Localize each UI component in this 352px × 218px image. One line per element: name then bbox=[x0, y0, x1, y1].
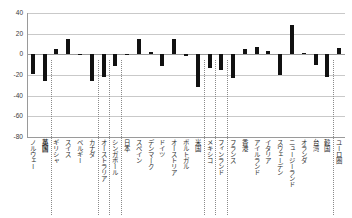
bar-slot bbox=[263, 13, 275, 137]
plot-area bbox=[27, 13, 345, 137]
x-axis-category-label: フィンランド bbox=[218, 139, 225, 175]
bar[interactable] bbox=[160, 54, 164, 65]
bar[interactable] bbox=[113, 54, 117, 65]
bar[interactable] bbox=[337, 48, 341, 54]
bar-slot bbox=[310, 13, 322, 137]
bar[interactable] bbox=[54, 49, 58, 54]
x-axis-category-label: デンマーク bbox=[147, 139, 154, 169]
y-axis-tick-label: -20 bbox=[0, 71, 23, 78]
bar[interactable] bbox=[255, 47, 259, 54]
bar-slot bbox=[51, 13, 63, 137]
x-axis-category-label: スウェーデン bbox=[277, 139, 284, 175]
bar-slot bbox=[227, 13, 239, 137]
bar-slot bbox=[86, 13, 98, 137]
bar-slot bbox=[145, 13, 157, 137]
bar[interactable] bbox=[172, 39, 176, 55]
x-axis-category-label: ノルウェー bbox=[29, 139, 36, 169]
bar[interactable] bbox=[266, 51, 270, 54]
x-axis-category-label: ポルトガル bbox=[183, 139, 190, 169]
bar-slot bbox=[62, 13, 74, 137]
bar-slot bbox=[333, 13, 345, 137]
x-axis-category-label: オランダ bbox=[300, 139, 307, 163]
bar-slot bbox=[74, 13, 86, 137]
x-axis-category-label: オーストラリア bbox=[100, 139, 107, 181]
x-axis-category-label: 韓国 bbox=[324, 139, 331, 151]
x-axis-category-label: ドイツ bbox=[159, 139, 166, 157]
x-axis-category-label: 米国 bbox=[194, 139, 201, 151]
bar[interactable] bbox=[231, 54, 235, 78]
bar-slot bbox=[157, 13, 169, 137]
bar[interactable] bbox=[184, 54, 188, 56]
bar-slot bbox=[204, 13, 216, 137]
bar-slot bbox=[192, 13, 204, 137]
x-axis-category-label: ユーロ圏 bbox=[336, 139, 343, 163]
bar-slot bbox=[133, 13, 145, 137]
x-axis-category-label: ニュージーランド bbox=[289, 139, 296, 187]
bar-slot bbox=[274, 13, 286, 137]
bar-slot bbox=[239, 13, 251, 137]
x-axis-category-label: アイルランド bbox=[253, 139, 260, 175]
bar[interactable] bbox=[66, 39, 70, 55]
y-axis-tick-label: 40 bbox=[0, 9, 23, 16]
bar[interactable] bbox=[278, 54, 282, 75]
x-axis-category-label: フランス bbox=[230, 139, 237, 163]
bar-slot bbox=[39, 13, 51, 137]
bar[interactable] bbox=[43, 54, 47, 81]
bar[interactable] bbox=[325, 54, 329, 77]
bar[interactable] bbox=[125, 54, 129, 55]
x-axis-label-group: ノルウェー英国ギリシャスイスベルギーカナダオーストラリアシンガポール日本スペイン… bbox=[27, 139, 345, 217]
x-axis-category-label: 日本 bbox=[124, 139, 131, 151]
x-axis-category-label: ギリシャ bbox=[53, 139, 60, 163]
bar[interactable] bbox=[302, 53, 306, 54]
bar[interactable] bbox=[219, 54, 223, 70]
bar[interactable] bbox=[196, 54, 200, 87]
bar-slot bbox=[180, 13, 192, 137]
bar[interactable] bbox=[31, 54, 35, 74]
bar-slot bbox=[109, 13, 121, 137]
bar[interactable] bbox=[314, 54, 318, 64]
bar[interactable] bbox=[208, 54, 212, 67]
x-axis-category-label: オーストリア bbox=[171, 139, 178, 175]
bar-slot bbox=[98, 13, 110, 137]
bar-slot bbox=[321, 13, 333, 137]
y-axis-tick-label: 20 bbox=[0, 30, 23, 37]
bar[interactable] bbox=[290, 25, 294, 54]
bar[interactable] bbox=[90, 54, 94, 81]
bar[interactable] bbox=[102, 54, 106, 77]
x-axis-category-label: 香港 bbox=[241, 139, 248, 151]
x-axis-category-label: 英国 bbox=[41, 139, 48, 151]
x-axis-category-label: メキシコ bbox=[206, 139, 213, 163]
bar-slot bbox=[286, 13, 298, 137]
x-axis-category-label: スイス bbox=[65, 139, 72, 157]
y-axis-tick-label: -60 bbox=[0, 112, 23, 119]
bar-slot bbox=[298, 13, 310, 137]
bar[interactable] bbox=[243, 49, 247, 54]
y-axis-tick-label: -80 bbox=[0, 133, 23, 140]
x-axis-line bbox=[27, 137, 345, 138]
bar[interactable] bbox=[149, 52, 153, 54]
bar-chart: 40200-20-40-60-80 ノルウェー英国ギリシャスイスベルギーカナダオ… bbox=[0, 0, 352, 218]
bar-slot bbox=[251, 13, 263, 137]
bar[interactable] bbox=[78, 54, 82, 55]
y-axis-tick-label: -40 bbox=[0, 92, 23, 99]
bar-slot bbox=[27, 13, 39, 137]
bar-slot bbox=[215, 13, 227, 137]
x-axis-category-label: スペイン bbox=[135, 139, 142, 163]
bar-slot bbox=[168, 13, 180, 137]
x-axis-category-label: シンガポール bbox=[112, 139, 119, 175]
x-axis-category-label: カナダ bbox=[88, 139, 95, 157]
bar-slot bbox=[121, 13, 133, 137]
x-axis-category-label: ベルギー bbox=[77, 139, 84, 163]
x-axis-category-label: 台湾 bbox=[312, 139, 319, 151]
x-axis-category-label: イタリア bbox=[265, 139, 272, 163]
bar[interactable] bbox=[137, 39, 141, 55]
y-axis-tick-label: 0 bbox=[0, 50, 23, 57]
